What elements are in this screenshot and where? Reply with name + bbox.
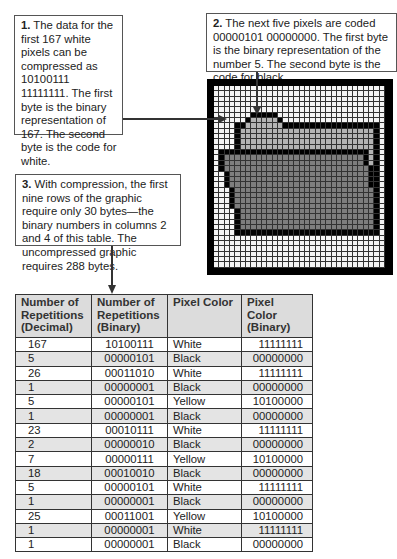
header-pixel-color: Pixel Color — [168, 295, 242, 338]
reps-binary-cell: 00011001 — [92, 509, 168, 523]
reps-decimal-cell: 1 — [16, 380, 92, 394]
reps-decimal-cell: 25 — [16, 509, 92, 523]
reps-binary-cell: 00010111 — [92, 423, 168, 437]
reps-decimal-cell: 26 — [16, 366, 92, 380]
compression-table: Number of Repetitions (Decimal) Number o… — [15, 294, 313, 552]
pixel-color-cell: Black — [168, 495, 242, 509]
pixel-color-cell: Black — [168, 409, 242, 423]
pixel-color-binary-cell: 11111111 — [242, 338, 313, 352]
reps-decimal-cell: 167 — [16, 338, 92, 352]
pixel-color-binary-cell: 10100000 — [242, 452, 313, 466]
callout-number: 1. — [21, 19, 30, 31]
table-row: 2300010111White11111111 — [16, 423, 313, 437]
pixel-color-binary-cell: 00000000 — [242, 409, 313, 423]
pixel-color-binary-cell: 11111111 — [242, 480, 313, 494]
arrow-down-icon — [108, 285, 116, 294]
pixel-color-cell: Yellow — [168, 395, 242, 409]
callout-text: The next five pixels are coded 00000101 … — [213, 17, 388, 83]
pixel-color-cell: White — [168, 366, 242, 380]
pixel-color-cell: Black — [168, 352, 242, 366]
table-header-row: Number of Repetitions (Decimal) Number o… — [16, 295, 313, 338]
connector-line-3 — [111, 246, 113, 286]
pixel-cell — [380, 262, 385, 267]
callout-text: The data for the first 167 white pixels … — [21, 19, 116, 167]
arrow-down-icon — [253, 107, 261, 115]
table-row: 1800010010Black00000000 — [16, 466, 313, 480]
reps-binary-cell: 00000001 — [92, 495, 168, 509]
pixel-color-cell: White — [168, 338, 242, 352]
reps-binary-cell: 00000111 — [92, 452, 168, 466]
reps-binary-cell: 00000101 — [92, 352, 168, 366]
arrow-right-icon — [219, 115, 227, 123]
callout-number: 2. — [213, 17, 222, 29]
reps-binary-cell: 10100111 — [92, 338, 168, 352]
pixel-color-cell: White — [168, 480, 242, 494]
reps-decimal-cell: 5 — [16, 480, 92, 494]
reps-binary-cell: 00000101 — [92, 480, 168, 494]
reps-decimal-cell: 1 — [16, 523, 92, 537]
table-row: 700000111Yellow10100000 — [16, 452, 313, 466]
pixel-graphic-frame — [207, 79, 393, 275]
pixel-color-cell: White — [168, 523, 242, 537]
reps-binary-cell: 00010010 — [92, 466, 168, 480]
pixel-color-cell: Yellow — [168, 452, 242, 466]
reps-binary-cell: 00000001 — [92, 523, 168, 537]
reps-binary-cell: 00011010 — [92, 366, 168, 380]
pixel-color-binary-cell: 11111111 — [242, 366, 313, 380]
table-body: 16710100111White11111111500000101Black00… — [16, 338, 313, 552]
reps-decimal-cell: 7 — [16, 452, 92, 466]
pixel-color-binary-cell: 11111111 — [242, 423, 313, 437]
pixel-color-binary-cell: 00000000 — [242, 495, 313, 509]
pixel-color-cell: Black — [168, 438, 242, 452]
reps-decimal-cell: 5 — [16, 395, 92, 409]
table-row: 2600011010White11111111 — [16, 366, 313, 380]
pixel-color-binary-cell: 10100000 — [242, 395, 313, 409]
table-row: 500000101Yellow10100000 — [16, 395, 313, 409]
table-row: 100000001Black00000000 — [16, 409, 313, 423]
pixel-color-binary-cell: 10100000 — [242, 509, 313, 523]
table-row: 100000001Black00000000 — [16, 495, 313, 509]
pixel-color-binary-cell: 00000000 — [242, 352, 313, 366]
table-row: 100000001Black00000000 — [16, 380, 313, 394]
reps-decimal-cell: 2 — [16, 438, 92, 452]
pixel-color-cell: Black — [168, 538, 242, 552]
pixel-color-binary-cell: 11111111 — [242, 523, 313, 537]
table-row: 2500011001Yellow10100000 — [16, 509, 313, 523]
reps-decimal-cell: 5 — [16, 352, 92, 366]
pixel-color-cell: Black — [168, 380, 242, 394]
reps-decimal-cell: 18 — [16, 466, 92, 480]
pixel-color-binary-cell: 00000000 — [242, 380, 313, 394]
callout-3: 3. With compression, the first nine rows… — [15, 174, 181, 246]
header-reps-binary: Number of Repetitions (Binary) — [92, 295, 168, 338]
pixel-color-binary-cell: 00000000 — [242, 466, 313, 480]
reps-decimal-cell: 1 — [16, 409, 92, 423]
pixel-color-binary-cell: 00000000 — [242, 438, 313, 452]
pixel-grid — [214, 86, 385, 268]
pixel-color-cell: Black — [168, 466, 242, 480]
connector-line-2 — [256, 72, 258, 109]
table-row: 16710100111White11111111 — [16, 338, 313, 352]
reps-decimal-cell: 1 — [16, 538, 92, 552]
reps-decimal-cell: 23 — [16, 423, 92, 437]
reps-binary-cell: 00000010 — [92, 438, 168, 452]
header-reps-decimal: Number of Repetitions (Decimal) — [16, 295, 92, 338]
reps-decimal-cell: 1 — [16, 495, 92, 509]
pixel-color-cell: Yellow — [168, 509, 242, 523]
table-row: 500000101Black00000000 — [16, 352, 313, 366]
callout-2: 2. The next five pixels are coded 000001… — [206, 13, 397, 72]
callout-1: 1. The data for the first 167 white pixe… — [14, 15, 123, 135]
callout-number: 3. — [22, 178, 31, 190]
reps-binary-cell: 00000101 — [92, 395, 168, 409]
header-pixel-color-binary: Pixel Color (Binary) — [242, 295, 313, 338]
pixel-color-cell: White — [168, 423, 242, 437]
callout-text: With compression, the first nine rows of… — [22, 178, 168, 272]
reps-binary-cell: 00000001 — [92, 380, 168, 394]
reps-binary-cell: 00000001 — [92, 538, 168, 552]
connector-line-1 — [123, 118, 220, 120]
table-row: 500000101White11111111 — [16, 480, 313, 494]
reps-binary-cell: 00000001 — [92, 409, 168, 423]
table-row: 200000010Black00000000 — [16, 438, 313, 452]
pixel-color-binary-cell: 00000000 — [242, 538, 313, 552]
table-row: 100000001Black00000000 — [16, 538, 313, 552]
table-row: 100000001White11111111 — [16, 523, 313, 537]
